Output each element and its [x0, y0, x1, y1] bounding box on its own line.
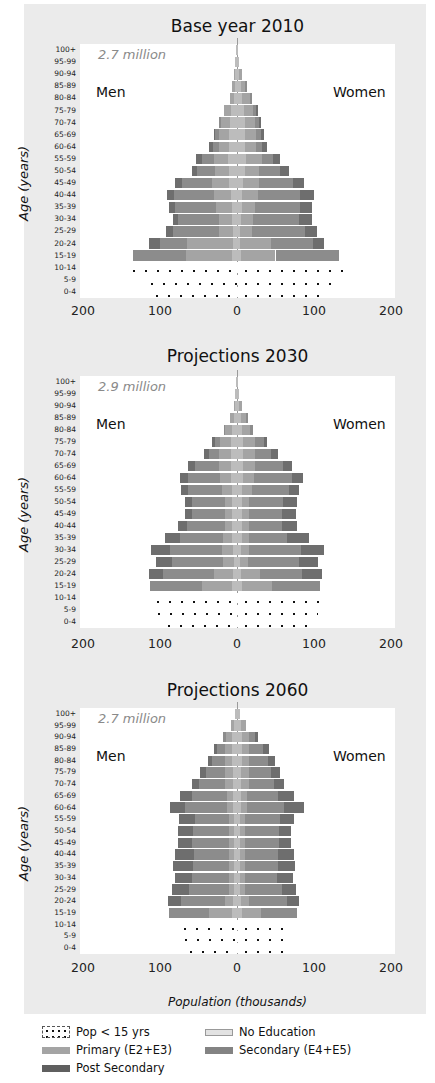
- secondary-segment: [187, 521, 225, 532]
- men-bar: [156, 557, 237, 568]
- men-bar: [150, 605, 237, 616]
- post-secondary-segment: [293, 178, 304, 189]
- x-tick-label: 200: [71, 960, 95, 975]
- secondary-segment: [192, 509, 225, 520]
- age-group-label: 15-19: [0, 251, 80, 261]
- post-secondary-segment: [185, 497, 192, 508]
- primary-segment: [225, 509, 233, 520]
- women-bar: [237, 779, 284, 789]
- men-bar: [212, 437, 237, 448]
- age-group-label: 75-79: [0, 106, 80, 116]
- primary-segment: [212, 178, 229, 189]
- women-label: Women: [333, 416, 386, 432]
- secondary-segment: [169, 908, 209, 918]
- primary-segment: [226, 732, 232, 742]
- post-secondary-segment: [169, 202, 175, 213]
- post-secondary-segment: [170, 802, 185, 812]
- no-education-segment: [229, 129, 237, 140]
- post-secondary-segment: [151, 545, 170, 556]
- primary-segment: [220, 473, 231, 484]
- post-secondary-segment: [292, 473, 303, 484]
- no-education-segment: [237, 105, 244, 116]
- post-secondary-segment: [178, 838, 193, 848]
- x-tick-label: 0: [233, 303, 241, 318]
- primary-segment: [219, 142, 230, 153]
- primary-segment: [219, 226, 233, 237]
- x-tick-label: 200: [379, 636, 403, 651]
- post-secondary-segment: [204, 449, 209, 460]
- men-bar: [179, 814, 237, 824]
- secondary-segment: [192, 838, 228, 848]
- age-group-label: 30-34: [0, 873, 80, 883]
- post-secondary-segment: [212, 437, 215, 448]
- age-group-label: 20-24: [0, 569, 80, 579]
- women-bar: [237, 238, 324, 249]
- secondary-segment: [173, 226, 219, 237]
- primary-segment: [245, 166, 259, 177]
- women-bar: [237, 545, 324, 556]
- age-group-label: 50-54: [0, 497, 80, 507]
- post-secondary-segment: [256, 105, 258, 116]
- primary-segment: [241, 250, 276, 261]
- age-group-label: 55-59: [0, 485, 80, 495]
- age-group-label: 70-74: [0, 779, 80, 789]
- post-secondary-segment: [192, 166, 197, 177]
- women-bar: [237, 413, 248, 424]
- post-secondary-segment: [284, 802, 304, 812]
- primary-segment: [214, 569, 233, 580]
- secondary-segment: [247, 802, 284, 812]
- women-bar: [237, 581, 320, 592]
- post-secondary-segment: [192, 779, 200, 789]
- secondary-segment: [224, 425, 226, 436]
- primary-segment: [229, 861, 234, 871]
- secondary-segment: [259, 166, 281, 177]
- total-population-label: 2.9 million: [98, 379, 166, 394]
- primary-segment: [222, 485, 231, 496]
- men-bar: [175, 178, 237, 189]
- post-secondary-segment: [179, 814, 194, 824]
- age-group-label: 90-94: [0, 732, 80, 742]
- women-bar: [237, 497, 297, 508]
- primary-segment: [242, 533, 249, 544]
- women-bar: [237, 931, 286, 941]
- post-secondary-segment: [175, 849, 193, 859]
- age-group-label: 65-69: [0, 130, 80, 140]
- secondary-segment: [245, 814, 280, 824]
- chart-title: Base year 2010: [80, 16, 395, 36]
- post-secondary-segment: [200, 767, 206, 777]
- post-secondary-segment: [172, 884, 189, 894]
- age-group-label: 35-39: [0, 533, 80, 543]
- secondary-segment: [163, 569, 214, 580]
- age-group-label: 90-94: [0, 69, 80, 79]
- post-secondary-swatch-icon: [42, 1065, 70, 1072]
- post-secondary-segment: [268, 756, 276, 766]
- men-bar: [223, 732, 237, 742]
- secondary-segment: [249, 744, 263, 754]
- secondary-segment: [245, 826, 279, 836]
- age-group-label: 80-84: [0, 425, 80, 435]
- women-bar: [237, 449, 278, 460]
- primary-segment: [242, 425, 250, 436]
- secondary-segment: [245, 849, 278, 859]
- primary-segment: [243, 437, 255, 448]
- men-bar: [175, 849, 237, 859]
- age-group-label: 60-64: [0, 473, 80, 483]
- age-group-label: 95-99: [0, 721, 80, 731]
- primary-segment: [243, 461, 255, 472]
- post-secondary-segment: [263, 744, 269, 754]
- women-bar: [237, 732, 258, 742]
- primary-segment: [242, 485, 251, 496]
- men-bar: [143, 275, 237, 286]
- men-bar: [169, 908, 237, 918]
- post-secondary-segment: [271, 767, 280, 777]
- no-education-segment: [237, 154, 246, 165]
- age-group-label: 70-74: [0, 449, 80, 459]
- primary-segment: [202, 581, 233, 592]
- men-bar: [168, 896, 237, 906]
- women-bar: [237, 377, 238, 388]
- secondary-segment: [202, 154, 214, 165]
- men-bar: [166, 226, 237, 237]
- age-group-label: 15-19: [0, 581, 80, 591]
- age-group-label: 45-49: [0, 178, 80, 188]
- women-bar: [237, 142, 267, 153]
